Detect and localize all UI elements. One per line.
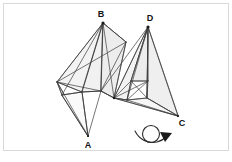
vertex-dot-R1 bbox=[113, 97, 115, 99]
vertex-dot-A bbox=[87, 135, 89, 137]
figure-frame: B D A C bbox=[0, 0, 232, 162]
vertex-label-A: A bbox=[85, 140, 92, 150]
vertex-dot-C bbox=[177, 115, 179, 117]
vertex-dot-B bbox=[101, 21, 104, 24]
polyhedra-diagram: B D A C bbox=[0, 0, 232, 162]
vertex-label-B: B bbox=[98, 9, 105, 19]
vertex-label-D: D bbox=[147, 13, 154, 23]
vertex-dot-D bbox=[146, 25, 149, 28]
vertex-label-C: C bbox=[179, 118, 186, 128]
